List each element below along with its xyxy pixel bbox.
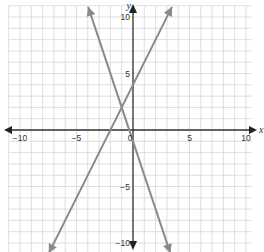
- x-axis-label: x: [258, 124, 264, 135]
- y-tick-label: −10: [116, 238, 131, 248]
- line-falling-arrow-top-icon: [87, 7, 96, 17]
- coordinate-plane: xy −10−50510−10−5510: [0, 0, 264, 252]
- y-axis-label: y: [126, 0, 132, 11]
- y-tick-label: −5: [120, 182, 130, 192]
- y-axis-down-arrow-icon: [129, 241, 137, 250]
- y-tick-label: 5: [125, 69, 130, 79]
- axes: xy: [4, 0, 264, 250]
- x-tick-label: −5: [72, 133, 82, 143]
- x-tick-label: −10: [13, 133, 28, 143]
- x-tick-label: 10: [241, 133, 251, 143]
- x-tick-label: 0: [128, 133, 133, 143]
- x-axis-left-arrow-icon: [4, 126, 12, 134]
- x-tick-label: 5: [187, 133, 192, 143]
- y-tick-label: 10: [121, 12, 131, 22]
- grid: [9, 6, 252, 252]
